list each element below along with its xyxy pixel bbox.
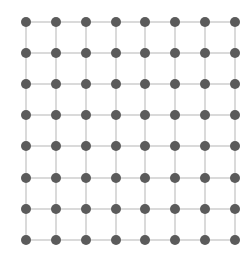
grid-node [230,235,240,245]
grid-node [21,235,31,245]
grid-node [140,48,150,58]
grid-node [230,48,240,58]
grid-node [200,204,210,214]
grid-nodes [21,17,240,245]
grid-node [111,173,121,183]
grid-node [230,173,240,183]
grid-node [140,235,150,245]
grid-node [21,173,31,183]
grid-node [81,204,91,214]
grid-node [51,204,61,214]
grid-node [21,110,31,120]
grid-node [111,235,121,245]
grid-node [81,235,91,245]
grid-node [170,110,180,120]
grid-node [81,48,91,58]
grid-node [230,141,240,151]
grid-node [230,79,240,89]
grid-node [170,17,180,27]
grid-node [200,141,210,151]
grid-node [140,17,150,27]
grid-node [200,17,210,27]
grid-node [140,141,150,151]
grid-node [51,48,61,58]
grid-node [51,173,61,183]
grid-node [140,173,150,183]
grid-node [140,204,150,214]
grid-node [51,141,61,151]
grid-node [170,235,180,245]
grid-node [200,173,210,183]
grid-node [200,79,210,89]
grid-node [81,173,91,183]
grid-node [200,235,210,245]
grid-node [170,173,180,183]
grid-node [111,110,121,120]
grid-node [81,141,91,151]
grid-node [21,17,31,27]
grid-node [230,204,240,214]
grid-node [111,79,121,89]
grid-node [51,235,61,245]
grid-node [170,79,180,89]
grid-node [51,79,61,89]
grid-node [140,79,150,89]
grid-node [111,204,121,214]
grid-node [21,79,31,89]
grid-node [81,110,91,120]
grid-node [111,48,121,58]
grid-node [170,48,180,58]
grid-node [111,17,121,27]
grid-node [51,110,61,120]
grid-node [51,17,61,27]
grid-node [230,110,240,120]
grid-node [170,204,180,214]
grid-graph-diagram [0,0,251,254]
grid-node [200,48,210,58]
grid-node [140,110,150,120]
grid-node [170,141,180,151]
grid-node [81,79,91,89]
grid-node [200,110,210,120]
grid-node [21,48,31,58]
grid-node [111,141,121,151]
grid-node [81,17,91,27]
grid-node [230,17,240,27]
grid-node [21,141,31,151]
grid-node [21,204,31,214]
